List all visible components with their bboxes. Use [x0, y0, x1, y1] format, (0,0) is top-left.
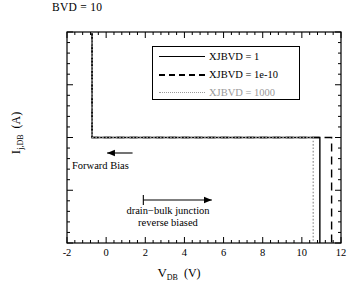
annotation-line: drain−bulk junction — [108, 205, 228, 217]
x-axis-title: VDB (V) — [0, 265, 358, 281]
legend-box: XJBVD = 1XJBVD = 1e-10XJBVD = 1000 — [152, 46, 300, 100]
figure-canvas: BVD = 10 10-45 × 10-50-5 × 10-5- 10-4 -2… — [0, 0, 358, 293]
annotation-arrows — [107, 150, 212, 205]
x-tick-label: 10 — [297, 247, 308, 258]
legend-item-label: XJBVD = 1 — [209, 51, 259, 62]
legend-item: XJBVD = 1e-10 — [153, 65, 301, 83]
legend-item: XJBVD = 1000 — [153, 83, 301, 101]
annotation-reverse-biased: drain−bulk junctionreverse biased — [108, 205, 228, 229]
legend-item: XJBVD = 1 — [153, 47, 301, 65]
x-tick-label: 12 — [336, 247, 347, 258]
x-tick-label: 8 — [260, 247, 265, 258]
legend-line-sample — [159, 86, 205, 98]
x-tick-label: 0 — [104, 247, 109, 258]
annotation-line: reverse biased — [108, 217, 228, 229]
legend-line-sample — [159, 68, 205, 80]
annotation-forward-bias: Forward Bias — [72, 160, 129, 171]
x-tick-labels: -2024681012 — [0, 247, 358, 261]
legend-item-label: XJBVD = 1e-10 — [209, 69, 278, 80]
x-tick-label: 6 — [221, 247, 226, 258]
legend-line-sample — [159, 50, 205, 62]
legend-item-label: XJBVD = 1000 — [209, 87, 275, 98]
x-tick-label: 2 — [143, 247, 148, 258]
x-tick-label: 4 — [182, 247, 187, 258]
y-axis-title: Ij,DB (A) — [8, 73, 24, 193]
x-tick-label: -2 — [63, 247, 72, 258]
